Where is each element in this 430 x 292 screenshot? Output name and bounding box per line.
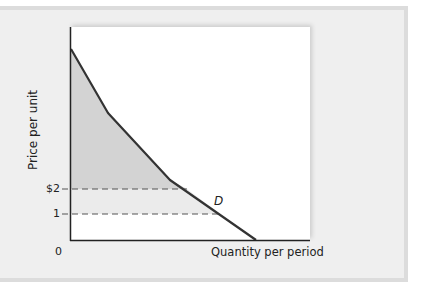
x-axis-label: Quantity per period — [211, 245, 324, 259]
demand-curve-label: D — [214, 194, 223, 208]
origin-label: 0 — [54, 245, 62, 258]
y-axis-label: Price per unit — [26, 90, 40, 170]
y-tick-2: $2 — [44, 182, 60, 195]
y-tick-1: 1 — [44, 207, 60, 220]
